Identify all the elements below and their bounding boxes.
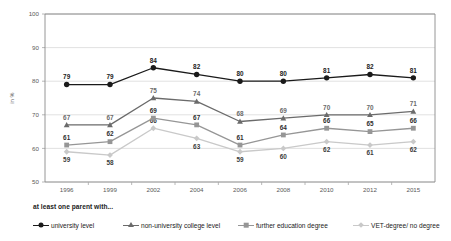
data-point-marker	[151, 65, 156, 70]
data-point-label: 80	[280, 70, 288, 77]
data-point-label: 81	[323, 67, 331, 74]
data-point-label: 79	[106, 73, 114, 80]
data-point-marker	[367, 142, 373, 148]
x-axis-tick-label: 2015	[406, 186, 420, 193]
data-point-marker	[411, 126, 416, 131]
data-point-label: 79	[63, 73, 71, 80]
data-point-marker	[281, 133, 286, 138]
legend-title: at least one parent with...	[33, 203, 113, 210]
data-point-label: 70	[323, 104, 331, 111]
x-axis-tick-label: 2008	[276, 186, 290, 193]
data-point-marker	[151, 116, 156, 121]
data-point-label: 74	[193, 90, 201, 97]
data-point-marker	[411, 75, 416, 80]
y-axis-tick-label: 50	[32, 178, 39, 185]
data-point-label: 59	[236, 156, 244, 163]
data-point-marker	[410, 139, 416, 145]
x-axis-tick-label: 2010	[320, 186, 334, 193]
data-point-marker	[150, 125, 156, 131]
data-point-marker	[237, 79, 242, 84]
data-point-label: 82	[193, 63, 201, 70]
y-axis-tick-label: 60	[32, 145, 39, 152]
data-point-label: 69	[280, 107, 288, 114]
data-point-marker	[324, 126, 329, 131]
data-point-label: 67	[106, 114, 114, 121]
data-point-label: 59	[63, 156, 71, 163]
data-point-label: 61	[366, 149, 374, 156]
square-marker-icon	[238, 221, 254, 230]
data-point-marker	[107, 152, 113, 158]
legend-label: further education degree	[255, 222, 328, 229]
legend-item-vet-degree-no-degree[interactable]: VET-degree/ no degree	[353, 219, 440, 231]
data-point-marker	[368, 129, 373, 134]
x-axis-tick-label: 2012	[363, 186, 377, 193]
data-point-marker	[237, 149, 243, 155]
data-point-label: 62	[410, 146, 418, 153]
x-axis-tick-label: 2004	[190, 186, 204, 193]
data-point-label: 67	[63, 114, 71, 121]
data-point-label: 80	[236, 70, 244, 77]
chart-container: 5060708090100in %19961999200220042006200…	[0, 0, 451, 241]
data-point-label: 61	[236, 134, 244, 141]
y-axis-title: in %	[9, 93, 15, 104]
legend-label: university level	[50, 222, 94, 229]
x-axis-tick-label: 1996	[60, 186, 74, 193]
x-axis-tick-label: 2002	[146, 186, 160, 193]
data-point-marker	[64, 149, 70, 155]
legend-item-university-level[interactable]: university level	[33, 219, 94, 231]
data-point-marker	[108, 139, 113, 144]
y-axis-tick-label: 80	[32, 77, 39, 84]
data-point-label: 69	[150, 107, 158, 114]
data-point-marker	[281, 79, 286, 84]
data-point-label: 63	[193, 143, 201, 150]
legend-label: VET-degree/ no degree	[370, 222, 440, 229]
y-axis-tick-label: 90	[32, 44, 39, 51]
data-point-label: 61	[63, 134, 71, 141]
data-point-marker	[64, 143, 69, 148]
data-point-marker	[194, 72, 199, 77]
legend-item-non-university-college-level[interactable]: non-university college level	[123, 219, 220, 231]
data-point-marker	[367, 72, 372, 77]
data-point-label: 58	[106, 159, 114, 166]
data-point-marker	[324, 75, 329, 80]
y-axis-tick-label: 70	[32, 111, 39, 118]
data-point-marker	[324, 139, 330, 145]
data-point-marker	[238, 143, 243, 148]
series-university-level: 797984828080818281	[63, 57, 417, 88]
triangle-marker-icon	[123, 221, 139, 230]
data-point-marker	[194, 122, 199, 127]
data-point-marker	[64, 82, 69, 87]
data-point-label: 82	[366, 63, 374, 70]
data-point-label: 81	[410, 67, 418, 74]
data-point-label: 67	[193, 114, 201, 121]
data-point-label: 68	[236, 110, 244, 117]
data-point-label: 75	[150, 87, 158, 94]
x-axis-tick-label: 2006	[233, 186, 247, 193]
data-point-marker	[107, 82, 112, 87]
data-point-label: 66	[410, 117, 418, 124]
x-axis-tick-label: 1999	[103, 186, 117, 193]
data-point-label: 60	[280, 153, 288, 160]
y-axis-tick-label: 100	[29, 10, 40, 17]
data-point-label: 66	[323, 117, 331, 124]
series-vet-degree-no-degree: 595866635960626162	[63, 117, 417, 166]
data-point-label: 70	[366, 104, 374, 111]
legend-label: non-university college level	[140, 222, 220, 229]
data-point-marker	[194, 135, 200, 141]
data-point-label: 62	[323, 146, 331, 153]
data-point-label: 62	[106, 130, 114, 137]
data-point-label: 64	[280, 124, 288, 131]
data-point-label: 84	[150, 57, 158, 64]
diamond-marker-icon	[353, 221, 369, 230]
chart-legend: university levelnon-university college l…	[33, 219, 443, 231]
circle-marker-icon	[33, 221, 49, 230]
data-point-label: 71	[410, 100, 418, 107]
series-non-university-college-level: 676775746869707071	[63, 87, 417, 127]
data-point-label: 65	[366, 120, 374, 127]
data-point-marker	[280, 146, 286, 152]
legend-item-further-education-degree[interactable]: further education degree	[238, 219, 328, 231]
